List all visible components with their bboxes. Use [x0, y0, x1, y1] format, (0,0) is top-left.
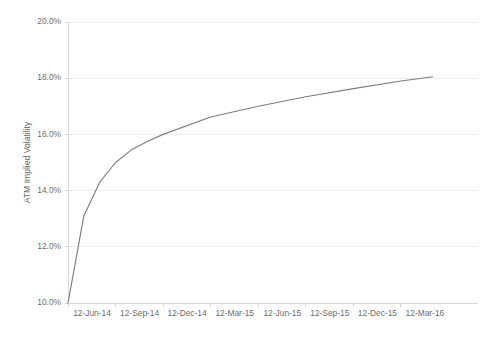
y-tick-label: 18.0% — [37, 72, 61, 82]
x-tick-label: 12-Jun-14 — [73, 308, 111, 318]
x-tick-label: 12-Dec-15 — [358, 308, 397, 318]
chart-container: 10.0%12.0%14.0%16.0%18.0%20.0% 12-Jun-14… — [0, 0, 497, 341]
y-tick-label: 16.0% — [37, 129, 61, 139]
y-tick-label: 12.0% — [37, 241, 61, 251]
y-tick-label: 20.0% — [37, 16, 61, 26]
x-tick-label: 12-Jun-15 — [263, 308, 301, 318]
atm-implied-volatility-line-chart: 10.0%12.0%14.0%16.0%18.0%20.0% 12-Jun-14… — [0, 0, 497, 341]
x-tick-label: 12-Sep-15 — [310, 308, 349, 318]
x-tick-label: 12-Sep-14 — [120, 308, 159, 318]
x-tick-label: 12-Mar-16 — [406, 308, 445, 318]
y-tick-label: 10.0% — [37, 297, 61, 307]
chart-background — [0, 0, 497, 341]
x-tick-label: 12-Mar-15 — [215, 308, 254, 318]
x-tick-label: 12-Dec-14 — [168, 308, 207, 318]
y-tick-label: 14.0% — [37, 185, 61, 195]
y-axis-title: ATM Implied Volatility — [22, 121, 32, 203]
